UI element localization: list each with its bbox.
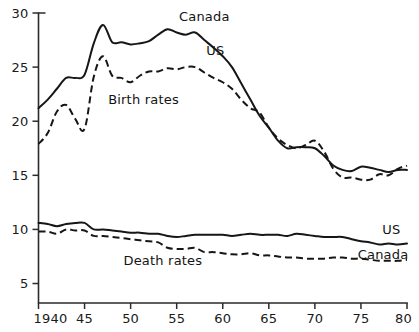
chart-container: 5101520253019404550556065707580 CanadaUS… <box>0 0 419 332</box>
y-tick-label-25: 25 <box>12 60 29 75</box>
annotation-us-birth-rate: US <box>206 43 224 58</box>
x-tick-label-75: 75 <box>352 311 369 326</box>
series-annotations: CanadaUSBirth ratesDeath ratesUSCanada <box>108 9 408 269</box>
series-line-birth-rates-us <box>39 56 408 180</box>
y-tick-label-20: 20 <box>12 114 29 129</box>
x-tick-label-50: 50 <box>122 311 139 326</box>
y-tick-label-30: 30 <box>12 6 29 21</box>
y-tick-label-15: 15 <box>12 168 29 183</box>
annotation-canada-birth-rate: Canada <box>179 9 230 24</box>
x-tick-label-55: 55 <box>168 311 185 326</box>
series-line-death-rates-us <box>39 222 408 244</box>
x-tick-label-70: 70 <box>306 311 323 326</box>
annotation-birth-rates-group: Birth rates <box>108 92 179 107</box>
x-tick-label-65: 65 <box>260 311 277 326</box>
x-tick-label-60: 60 <box>214 311 231 326</box>
x-tick-label-80: 80 <box>395 311 412 326</box>
y-tick-label-10: 10 <box>12 222 29 237</box>
line-chart-figure: 5101520253019404550556065707580 CanadaUS… <box>0 0 419 332</box>
data-series <box>39 25 408 261</box>
annotation-canada-death-rate: Canada <box>358 247 409 262</box>
annotation-death-rates-group: Death rates <box>123 253 202 268</box>
x-tick-label-1940: 1940 <box>34 311 68 326</box>
y-tick-label-5: 5 <box>20 276 28 291</box>
annotation-us-death-rate: US <box>382 222 400 237</box>
x-tick-label-45: 45 <box>76 311 93 326</box>
